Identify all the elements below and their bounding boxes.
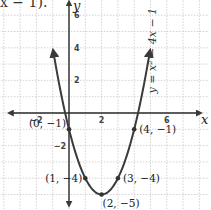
parabola-chart: −226642−2 (0, −1)(4, −1)(1, −4)(3, −4)(2… [0, 0, 211, 210]
y-tick-label: −2 [54, 142, 66, 151]
point-marker [83, 176, 88, 181]
equation-label: y = x² − 4x − 1 [146, 8, 159, 95]
y-tick-label: 2 [74, 76, 80, 85]
point-label: (3, −4) [123, 172, 160, 184]
axes [10, 3, 199, 204]
y-tick-label: 4 [74, 44, 80, 53]
y-axis-label: y [72, 0, 81, 12]
point-marker [116, 176, 121, 181]
x-axis-label: x [201, 112, 209, 127]
point-label: (4, −1) [139, 123, 176, 135]
point-marker [132, 127, 137, 132]
point-label: (0, −1) [29, 117, 66, 129]
grid-lines [0, 1, 209, 210]
point-label: (2, −5) [103, 197, 140, 209]
y-tick-label: 6 [74, 11, 80, 20]
x-tick-label: 2 [99, 116, 105, 125]
point-marker [67, 127, 72, 132]
point-label: (1, −4) [45, 172, 82, 184]
axis-names: xyy = x² − 4x − 1 [72, 0, 209, 127]
